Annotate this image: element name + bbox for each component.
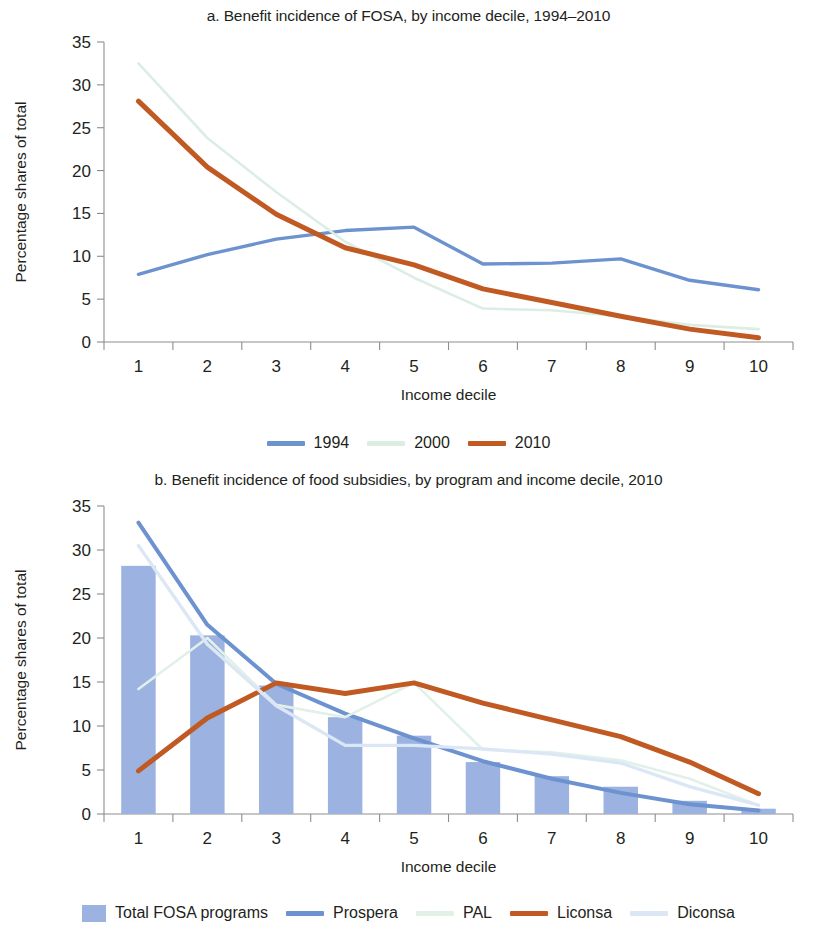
x-tick-label: 9 [685,829,694,848]
bar-total-fosa [328,717,362,814]
legend-item-2010: 2010 [468,434,551,452]
y-tick-label: 25 [72,585,91,604]
legend-swatch-line-2000 [367,441,405,446]
x-tick-label: 1 [134,829,143,848]
x-tick-label: 9 [685,357,694,376]
panel-b: b. Benefit incidence of food subsidies, … [0,466,817,942]
y-tick-label: 0 [82,333,91,352]
x-tick-label: 2 [203,357,212,376]
series-line-1994 [138,227,758,290]
y-tick-label: 10 [72,247,91,266]
legend-label: 1994 [314,434,350,452]
y-tick-label: 30 [72,541,91,560]
y-tick-label: 15 [72,204,91,223]
y-tick-label: 20 [72,629,91,648]
figure-container: a. Benefit incidence of FOSA, by income … [0,0,817,942]
y-tick-label: 0 [82,805,91,824]
panel-b-title: b. Benefit incidence of food subsidies, … [0,466,817,492]
legend-swatch-line-prospera [286,911,324,916]
y-tick-label: 20 [72,162,91,181]
series-line-2000 [138,63,758,329]
legend-label: Total FOSA programs [115,904,268,922]
panel-b-legend: Total FOSA programsProsperaPALLiconsaDic… [0,900,817,926]
legend-label: Liconsa [557,904,612,922]
legend-item-2000: 2000 [367,434,450,452]
legend-label: 2010 [515,434,551,452]
x-tick-label: 8 [616,357,625,376]
panel-b-chart: 0510152025303512345678910Income decilePe… [0,492,817,900]
legend-item-liconsa: Liconsa [510,904,612,922]
y-tick-label: 35 [72,33,91,52]
legend-item-1994: 1994 [267,434,350,452]
legend-swatch-box-total-fosa-programs [82,905,106,922]
y-tick-label: 15 [72,673,91,692]
x-tick-label: 3 [272,357,281,376]
y-tick-label: 5 [82,290,91,309]
series-line-diconsa [138,546,758,806]
panel-a-legend: 199420002010 [0,430,817,456]
x-tick-label: 6 [478,357,487,376]
legend-swatch-line-diconsa [630,911,668,916]
y-axis-title: Percentage shares of total [12,102,29,283]
x-tick-label: 2 [203,829,212,848]
y-tick-label: 25 [72,119,91,138]
y-tick-label: 30 [72,76,91,95]
bar-total-fosa [466,762,500,814]
x-axis-title: Income decile [401,858,497,875]
y-tick-label: 35 [72,497,91,516]
x-tick-label: 3 [272,829,281,848]
x-tick-label: 7 [547,357,556,376]
legend-label: Diconsa [677,904,735,922]
legend-item-total-fosa-programs: Total FOSA programs [82,904,268,922]
legend-swatch-line-liconsa [510,911,548,916]
legend-swatch-line-2010 [468,441,506,446]
x-tick-label: 10 [749,357,768,376]
x-tick-label: 1 [134,357,143,376]
x-tick-label: 4 [340,829,349,848]
y-tick-label: 5 [82,761,91,780]
legend-swatch-line-1994 [267,441,305,446]
x-tick-label: 6 [478,829,487,848]
legend-item-diconsa: Diconsa [630,904,735,922]
x-axis-title: Income decile [401,386,497,403]
series-line-2010 [138,101,758,338]
x-tick-label: 4 [340,357,349,376]
x-tick-label: 7 [547,829,556,848]
x-tick-label: 8 [616,829,625,848]
panel-a-chart: 0510152025303512345678910Income decilePe… [0,28,817,428]
x-tick-label: 5 [409,829,418,848]
x-tick-label: 10 [749,829,768,848]
legend-item-prospera: Prospera [286,904,398,922]
panel-a-title: a. Benefit incidence of FOSA, by income … [0,0,817,28]
y-axis-title: Percentage shares of total [12,570,29,751]
legend-item-pal: PAL [416,904,492,922]
panel-a: a. Benefit incidence of FOSA, by income … [0,0,817,478]
x-tick-label: 5 [409,357,418,376]
legend-swatch-line-pal [416,911,454,916]
y-tick-label: 10 [72,717,91,736]
legend-label: Prospera [333,904,398,922]
legend-label: 2000 [414,434,450,452]
legend-label: PAL [463,904,492,922]
